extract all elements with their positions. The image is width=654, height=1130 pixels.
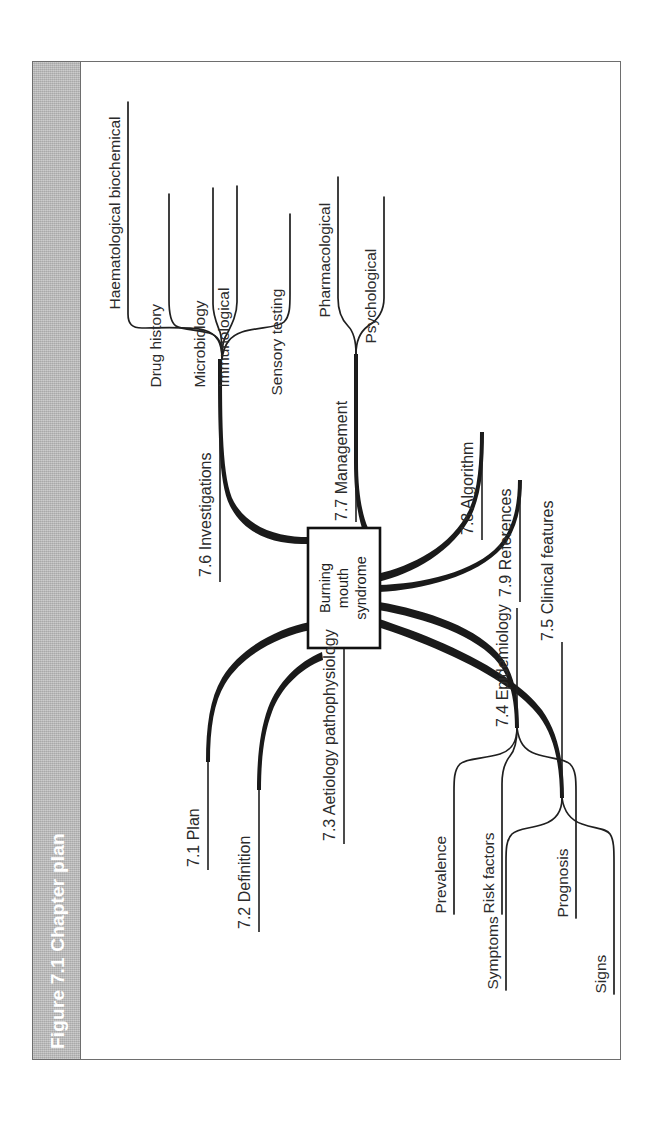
page-title: Figure 7.1 Chapter plan xyxy=(47,833,66,1049)
branch-clinical-features-stem xyxy=(375,618,564,798)
label-plan: 7.1 Plan xyxy=(186,808,202,867)
label-signs: Signs xyxy=(593,954,609,993)
label-investigations: 7.6 Investigations xyxy=(198,452,214,577)
label-sensory-testing: Sensory testing xyxy=(269,288,285,395)
label-immunological: Immunological xyxy=(216,287,232,387)
central-node-label: Burning mouth syndrome xyxy=(284,538,404,638)
label-drug-history: Drug history xyxy=(148,303,164,387)
label-epidemiology: 7.4 Epidemiology xyxy=(495,604,511,727)
label-references: 7.9 References xyxy=(498,488,514,597)
label-prevalence: Prevalence xyxy=(433,835,449,913)
label-management: 7.7 Management xyxy=(334,401,350,521)
label-aetiology: 7.3 Aetiology pathophysiology xyxy=(322,629,338,841)
figure-title-band: Figure 7.1 Chapter plan xyxy=(33,62,81,1059)
branch-plan-stem xyxy=(206,622,311,762)
branch-definition-stem xyxy=(257,652,323,790)
label-haematological-biochemical: Haematological biochemical xyxy=(107,116,123,309)
branch-investigations-stem xyxy=(218,359,308,544)
figure-frame: Figure 7.1 Chapter plan xyxy=(32,61,621,1060)
label-definition: 7.2 Definition xyxy=(237,836,253,929)
central-node-line-2: mouth xyxy=(335,556,353,620)
label-symptoms: Symptoms xyxy=(485,916,501,989)
label-clinical-features: 7.5 Clinical features xyxy=(540,500,556,641)
label-pharmacological: Pharmacological xyxy=(317,202,333,317)
chapter-plan-diagram: Haematological biochemical Drug history … xyxy=(82,62,620,1059)
label-psychological: Psychological xyxy=(363,248,379,343)
label-prognosis: Prognosis xyxy=(555,848,571,917)
label-algorithm: 7.8 Algorithm xyxy=(460,442,476,535)
label-microbiology: Microbiology xyxy=(192,300,208,387)
label-risk-factors: Risk factors xyxy=(481,832,497,913)
central-node-line-1: Burning xyxy=(317,556,335,620)
central-node-line-3: syndrome xyxy=(353,556,371,620)
